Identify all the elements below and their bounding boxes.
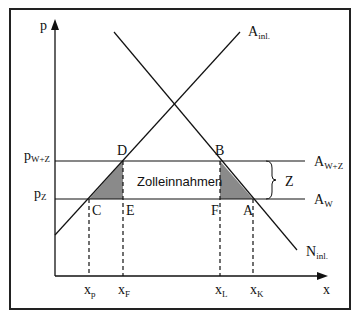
point-F: F [211, 203, 219, 218]
tariff-label: Z [285, 174, 294, 189]
y-axis-label: p [40, 18, 47, 33]
x-axis-label: x [323, 282, 330, 297]
x-axis-arrow-icon [317, 272, 328, 280]
tariff-revenue-label: Zolleinnahmen [137, 174, 222, 189]
qty-label-xL: xL [215, 282, 228, 299]
shaded-triangle-right [220, 161, 253, 199]
world-plus-tariff-label: AW+Z [314, 154, 343, 171]
supply-label: Ainl. [248, 24, 270, 41]
point-A: A [243, 203, 254, 218]
qty-label-xF: xF [118, 282, 130, 299]
demand-label: Ninl. [306, 244, 328, 261]
world-price-label: AW [314, 192, 333, 209]
price-label-pz: pZ [34, 186, 47, 202]
qty-label-xK: xK [250, 282, 264, 299]
point-C: C [92, 203, 101, 218]
price-label-pwz: pW+Z [24, 148, 50, 164]
tariff-diagram: p x Ainl. Ninl. AW+Z AW pW+Z pZ D B C E … [0, 0, 363, 318]
point-B: B [215, 143, 224, 158]
y-axis-arrow-icon [51, 19, 59, 30]
point-E: E [126, 203, 135, 218]
point-D: D [117, 143, 127, 158]
tariff-brace-icon [266, 161, 276, 199]
qty-label-xp: xp [84, 282, 96, 299]
frame-border [10, 9, 350, 309]
